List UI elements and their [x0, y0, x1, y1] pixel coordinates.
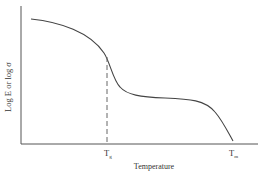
tg-sub: g [109, 154, 112, 159]
y-axis-label: Log E or log σ [3, 62, 13, 112]
modulus-temperature-chart: Log E or log σ Tg Tm Temperature [0, 0, 266, 177]
tm-label: Tm [229, 148, 238, 159]
tg-label: Tg [104, 148, 112, 159]
x-axis-label: Temperature [134, 162, 175, 171]
modulus-curve [31, 19, 233, 141]
tm-sub: m [234, 154, 238, 159]
